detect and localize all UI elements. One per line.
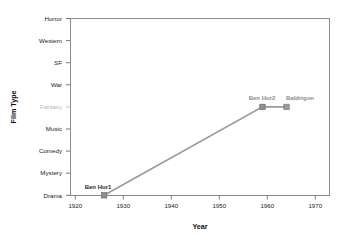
y-tick-label-sf: SF <box>54 59 62 66</box>
y-tick-label-drama: Drama <box>43 192 62 199</box>
y-tick-label-fantasy: Fantasy <box>40 103 63 110</box>
y-tick-label-western: Western <box>39 37 62 44</box>
x-tick-label-1940: 1940 <box>164 202 178 209</box>
chart-canvas: Horror Western SF War Fantasy Music <box>0 0 346 244</box>
y-axis-title: Film Type <box>9 90 18 123</box>
y-tick-label-horror: Horror <box>44 15 62 22</box>
data-point-marker[interactable] <box>101 193 106 198</box>
y-tick-label-mystery: Mystery <box>40 169 63 176</box>
x-tick-label-1950: 1950 <box>212 202 226 209</box>
data-point-label-ben-hur1: Ben Hur1 <box>85 184 112 190</box>
x-tick-label-1960: 1960 <box>260 202 274 209</box>
chart-figure: Horror Western SF War Fantasy Music <box>0 0 346 244</box>
data-point-label-ben-hur2: Ben Hur2 <box>249 95 276 101</box>
data-point-marker[interactable] <box>284 104 289 109</box>
y-tick-label-music: Music <box>46 125 62 132</box>
x-tick-label-1920: 1920 <box>68 202 82 209</box>
data-point-label-baldrigon: Baldrigon <box>286 95 314 101</box>
x-tick-label-1930: 1930 <box>116 202 130 209</box>
y-tick-label-war: War <box>51 81 62 88</box>
x-tick-label-1970: 1970 <box>308 202 322 209</box>
data-point-marker[interactable] <box>260 104 265 109</box>
x-axis-title: Year <box>192 222 207 231</box>
y-tick-label-comedy: Comedy <box>39 147 63 154</box>
